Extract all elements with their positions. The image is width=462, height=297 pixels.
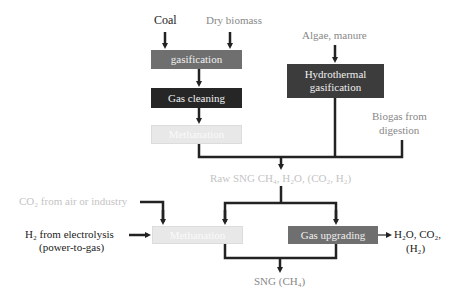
gas-cleaning-label: Gas cleaning [168, 92, 225, 105]
gasification-box: gasification [151, 50, 242, 69]
methanation-bottom-label: Methanation [170, 229, 226, 242]
byproducts-label-line1: H₂O, CO₂, [394, 228, 441, 241]
methanation-top-label: Methanation [169, 128, 225, 141]
methanation-bottom-box: Methanation [152, 226, 243, 244]
gas-upgrading-label: Gas upgrading [301, 229, 365, 242]
hydrothermal-gasification-box: Hydrothermal gasification [287, 64, 384, 98]
biogas-label-line1: Biogas from [372, 110, 427, 123]
co2-source-label: CO₂ from air or industry [19, 195, 127, 208]
byproducts-label-line2: (H₂) [406, 242, 425, 255]
h2-source-label-line1: H₂ from electrolysis [25, 228, 114, 241]
h2-source-label-line2: (power-to-gas) [39, 241, 104, 254]
raw-sng-label: Raw SNG CH₄, H₂O, (CO₂, H₂) [210, 172, 351, 185]
gas-upgrading-box: Gas upgrading [288, 226, 378, 244]
methanation-top-box: Methanation [151, 125, 242, 144]
algae-manure-label: Algae, manure [302, 29, 367, 42]
biogas-label-line2: digestion [379, 124, 419, 137]
gasification-label: gasification [171, 53, 222, 66]
sng-output-label: SNG (CH₄) [254, 275, 305, 288]
gas-cleaning-box: Gas cleaning [151, 88, 242, 108]
hydrothermal-label-line1: Hydrothermal [305, 68, 367, 81]
hydrothermal-label-line2: gasification [310, 81, 361, 94]
dry-biomass-label: Dry biomass [206, 14, 262, 27]
coal-label: Coal [154, 14, 177, 27]
